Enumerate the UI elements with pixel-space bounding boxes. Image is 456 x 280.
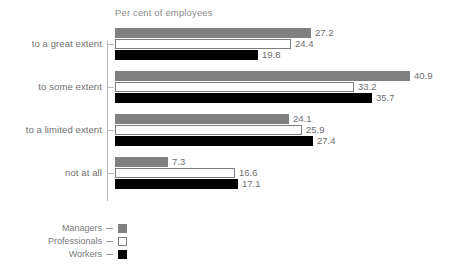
category-label: to some extent [38, 81, 102, 92]
legend-item-managers: Managers [0, 222, 456, 234]
chart-title: Per cent of employees [115, 7, 213, 18]
category-axis-line [107, 41, 108, 201]
axis-tick [107, 173, 114, 174]
legend-dash [106, 228, 113, 229]
category-label: not at all [65, 167, 102, 178]
bar-value-label: 24.4 [295, 38, 314, 50]
bar-value-label: 7.3 [172, 156, 185, 168]
legend-swatch-managers [118, 224, 127, 233]
legend-label: Professionals [0, 235, 102, 247]
bar-managers [115, 114, 289, 124]
bar-managers [115, 71, 410, 81]
bar-professionals [115, 125, 302, 135]
legend-item-professionals: Professionals [0, 235, 456, 247]
bar-value-label: 17.1 [242, 178, 261, 190]
bar-value-label: 40.9 [414, 70, 433, 82]
chart-page: { "chart_data": { "type": "bar", "orient… [0, 0, 456, 280]
legend-dash [106, 254, 113, 255]
bar-managers [115, 28, 311, 38]
category-label: to a limited extent [26, 124, 102, 135]
bar-professionals [115, 39, 291, 49]
bar-value-label: 19.8 [262, 49, 281, 61]
axis-tick [107, 87, 114, 88]
legend-label: Managers [0, 222, 102, 234]
legend-label: Workers [0, 248, 102, 260]
bar-workers [115, 179, 238, 189]
category-label: to a great extent [32, 38, 102, 49]
bar-value-label: 35.7 [376, 92, 395, 104]
bar-value-label: 33.2 [358, 81, 377, 93]
legend-item-workers: Workers [0, 248, 456, 260]
bar-workers [115, 50, 258, 60]
axis-tick [107, 44, 114, 45]
bar-workers [115, 136, 313, 146]
legend-swatch-workers [118, 250, 127, 259]
bar-managers [115, 157, 168, 167]
plot-area: to a great extent 27.2 24.4 19.8 to some… [0, 28, 456, 213]
bar-value-label: 27.2 [315, 27, 334, 39]
bar-value-label: 27.4 [317, 135, 336, 147]
legend-dash [106, 241, 113, 242]
legend-swatch-professionals [118, 237, 127, 246]
bar-professionals [115, 168, 235, 178]
bar-workers [115, 93, 372, 103]
bar-professionals [115, 82, 354, 92]
axis-tick [107, 130, 114, 131]
